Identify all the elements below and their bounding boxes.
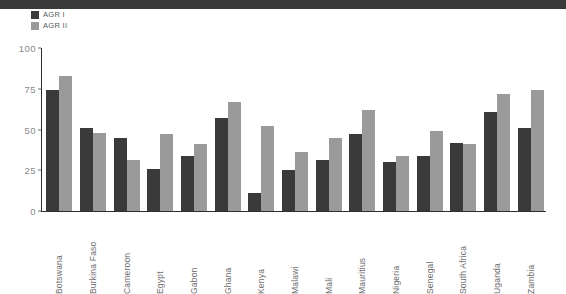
bar	[450, 143, 463, 211]
x-axis-label-slot: Gabon	[181, 214, 207, 294]
bar-group	[46, 48, 72, 211]
y-axis-tick-mark	[38, 170, 41, 171]
x-axis-labels: BotswanaBurkina FasoCameroonEgyptGabonGh…	[41, 214, 546, 294]
bar	[93, 133, 106, 211]
bar-group	[518, 48, 544, 211]
x-axis-label-slot: Egypt	[147, 214, 173, 294]
x-axis-label-slot: Uganda	[484, 214, 510, 294]
bar	[383, 162, 396, 211]
x-axis-tick-label: South Africa	[458, 214, 468, 294]
bar	[160, 134, 173, 211]
bar-group	[450, 48, 476, 211]
bar	[396, 156, 409, 211]
x-axis-label-slot: Botswana	[46, 214, 72, 294]
x-axis-tick-label: Botswana	[54, 214, 64, 294]
bar-group	[316, 48, 342, 211]
bar	[215, 118, 228, 211]
x-axis-label-slot: Ghana	[215, 214, 241, 294]
bar	[114, 138, 127, 211]
x-axis-tick-label: Cameroon	[122, 214, 132, 294]
x-axis-label-slot: Cameroon	[114, 214, 140, 294]
bar	[282, 170, 295, 211]
bar-group	[349, 48, 375, 211]
x-axis-label-slot: Senegal	[417, 214, 443, 294]
chart-legend: AGR I AGR II	[31, 10, 67, 30]
bar-group	[80, 48, 106, 211]
y-axis-tick-label: 0	[30, 206, 36, 217]
bar	[295, 152, 308, 211]
x-axis-label-slot: Burkina Faso	[80, 214, 106, 294]
bar	[59, 76, 72, 211]
y-axis-tick-label: 100	[19, 43, 36, 54]
y-axis-tick-mark	[38, 211, 41, 212]
bar	[181, 156, 194, 211]
bar-chart-figure: AGR I AGR II 0255075100 BotswanaBurkina …	[0, 0, 566, 294]
y-axis-tick-label: 75	[24, 83, 36, 94]
bar-group	[484, 48, 510, 211]
x-axis-label-slot: Mauritius	[349, 214, 375, 294]
bar	[430, 131, 443, 211]
legend-label-agr-ii: AGR II	[43, 21, 67, 30]
bar	[228, 102, 241, 211]
x-axis-tick-label: Malawi	[290, 214, 300, 294]
x-axis-tick-label: Mauritius	[357, 214, 367, 294]
y-axis-tick-label: 50	[24, 124, 36, 135]
x-axis-tick-label: Egypt	[155, 214, 165, 294]
bar-group	[181, 48, 207, 211]
plot-area: 0255075100	[41, 48, 546, 211]
bar	[463, 144, 476, 211]
bar	[349, 134, 362, 211]
x-axis-tick-label: Ghana	[223, 214, 233, 294]
x-axis-tick-label: Nigeria	[391, 214, 401, 294]
x-axis-label-slot: South Africa	[450, 214, 476, 294]
legend-swatch-agr-i	[31, 11, 39, 19]
bar	[531, 90, 544, 211]
bar	[362, 110, 375, 211]
bar-group	[417, 48, 443, 211]
bar	[127, 160, 140, 211]
bar-group	[215, 48, 241, 211]
y-axis-tick-mark	[38, 129, 41, 130]
bar	[46, 90, 59, 211]
x-axis-label-slot: Kenya	[248, 214, 274, 294]
bar	[147, 169, 160, 211]
bar-group	[147, 48, 173, 211]
x-axis-tick-label: Burkina Faso	[88, 214, 98, 294]
legend-item: AGR II	[31, 21, 67, 30]
bar-group	[383, 48, 409, 211]
x-axis-tick-label: Kenya	[256, 214, 266, 294]
x-axis-tick-label: Senegal	[425, 214, 435, 294]
x-axis-label-slot: Nigeria	[383, 214, 409, 294]
y-axis-tick-mark	[38, 48, 41, 49]
bar-series-container	[42, 48, 546, 211]
x-axis-tick-label: Mali	[324, 214, 334, 294]
bar	[329, 138, 342, 211]
legend-swatch-agr-ii	[31, 22, 39, 30]
x-axis-line	[41, 211, 546, 212]
bar	[497, 94, 510, 211]
y-axis-tick-label: 25	[24, 165, 36, 176]
x-axis-label-slot: Mali	[316, 214, 342, 294]
bar	[484, 112, 497, 211]
bar-group	[248, 48, 274, 211]
bar	[316, 160, 329, 211]
bar	[80, 128, 93, 211]
legend-label-agr-i: AGR I	[43, 10, 65, 19]
x-axis-tick-label: Uganda	[492, 214, 502, 294]
top-band-decoration	[0, 0, 566, 9]
bar	[261, 126, 274, 211]
x-axis-tick-label: Gabon	[189, 214, 199, 294]
bar	[194, 144, 207, 211]
bar	[248, 193, 261, 211]
bar-group	[282, 48, 308, 211]
legend-item: AGR I	[31, 10, 67, 19]
x-axis-label-slot: Zambia	[518, 214, 544, 294]
bar	[518, 128, 531, 211]
x-axis-tick-label: Zambia	[526, 214, 536, 294]
bar-group	[114, 48, 140, 211]
y-axis-tick-mark	[38, 88, 41, 89]
x-axis-label-slot: Malawi	[282, 214, 308, 294]
bar	[417, 156, 430, 211]
